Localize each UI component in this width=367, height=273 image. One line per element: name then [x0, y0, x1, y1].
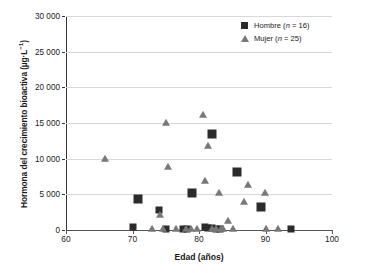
y-tick-label: 15 000 [35, 119, 60, 128]
data-point-mujer [261, 189, 269, 196]
data-point-mujer [156, 211, 164, 218]
data-point-hombre [129, 223, 136, 230]
y-tick-mark [62, 123, 65, 124]
y-tick-mark [62, 87, 65, 88]
data-point-mujer [148, 225, 156, 232]
x-tick-label: 60 [61, 234, 70, 244]
legend-square-icon [238, 22, 251, 29]
y-tick-label: 10 000 [35, 154, 60, 163]
chart-figure: Hormona del crecimiento bioactiva (µg·L−… [0, 0, 367, 273]
y-tick-label: 30 000 [35, 12, 60, 21]
data-point-mujer [224, 216, 232, 223]
y-axis-title-superscript: −1 [17, 43, 24, 50]
legend-label-hombre-text: Hombre ( [254, 21, 286, 30]
gridline-y [66, 52, 332, 53]
x-tick-label: 100 [325, 234, 339, 244]
y-axis-title-text: Hormona del crecimiento bioactiva (µg·L [19, 50, 29, 208]
y-tick-label: 5 000 [40, 190, 61, 199]
x-tick-label: 90 [261, 234, 270, 244]
data-point-mujer [215, 189, 223, 196]
data-point-mujer [193, 225, 201, 232]
data-point-mujer [244, 181, 252, 188]
gridline-y [66, 16, 332, 17]
legend-label-mujer: Mujer (n = 25) [254, 32, 302, 45]
gridline-y [66, 123, 332, 124]
data-point-mujer [159, 224, 167, 231]
y-axis-title: Hormona del crecimiento bioactiva (µg·L−… [14, 8, 28, 240]
data-point-hombre [133, 195, 142, 204]
legend-triangle-icon [238, 35, 251, 42]
y-tick-mark [62, 16, 65, 17]
data-point-mujer [204, 141, 212, 148]
data-point-mujer [201, 176, 209, 183]
chart-legend: Hombre (n = 16) Mujer (n = 25) [238, 19, 310, 45]
data-point-mujer [274, 225, 282, 232]
x-tick-label: 70 [128, 234, 137, 244]
legend-hombre-n-value: = 16) [290, 21, 310, 30]
data-point-hombre [232, 167, 241, 176]
data-point-mujer [229, 225, 237, 232]
x-axis-title: Edad (años) [66, 252, 332, 262]
data-point-mujer [199, 111, 207, 118]
y-tick-label: 20 000 [35, 83, 60, 92]
y-tick-label: 0 [55, 226, 60, 235]
gridline-y [66, 194, 332, 195]
data-point-mujer [219, 224, 227, 231]
y-axis-title-tail: ) [19, 40, 29, 43]
data-point-hombre [207, 129, 216, 138]
data-point-mujer [101, 155, 109, 162]
y-tick-mark [62, 159, 65, 160]
data-point-mujer [164, 163, 172, 170]
data-point-hombre [256, 202, 265, 211]
y-tick-label: 25 000 [35, 47, 60, 56]
data-point-hombre [188, 189, 197, 198]
y-tick-mark [62, 194, 65, 195]
legend-label-hombre: Hombre (n = 16) [254, 19, 310, 32]
plot-area: 05 00010 00015 00020 00025 00030 0006070… [66, 16, 332, 230]
data-point-mujer [240, 197, 248, 204]
legend-item-mujer: Mujer (n = 25) [238, 32, 310, 45]
data-point-hombre [288, 225, 295, 232]
legend-label-mujer-text: Mujer ( [254, 34, 278, 43]
data-point-mujer [172, 225, 180, 232]
gridline-y [66, 87, 332, 88]
data-point-mujer [162, 118, 170, 125]
legend-mujer-n-value: = 25) [282, 34, 302, 43]
data-point-mujer [262, 225, 270, 232]
y-tick-mark [62, 230, 65, 231]
x-tick-label: 80 [194, 234, 203, 244]
legend-item-hombre: Hombre (n = 16) [238, 19, 310, 32]
y-tick-mark [62, 52, 65, 53]
